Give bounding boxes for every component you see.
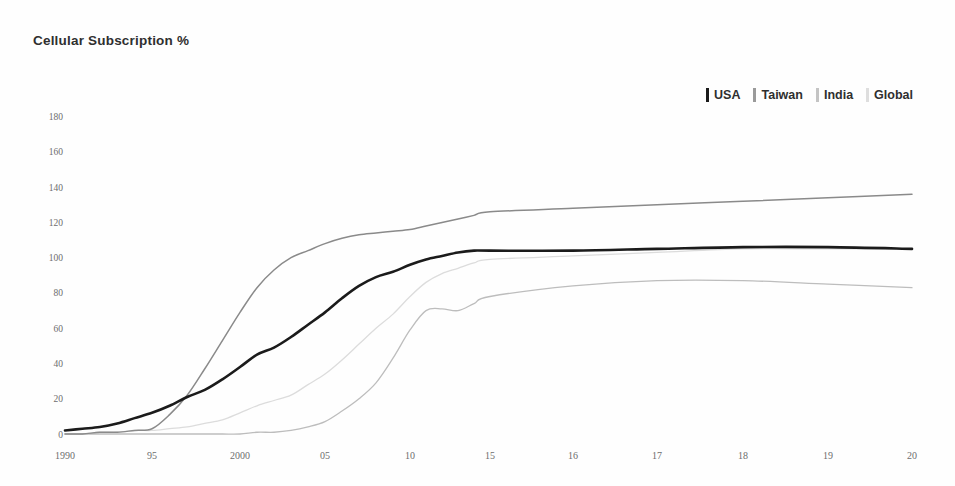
y-axis-tick-label: 0 [58, 430, 63, 440]
y-axis-tick-label: 20 [54, 394, 64, 404]
x-axis-tick-label: 1990 [55, 450, 75, 461]
x-axis-tick-label: 05 [320, 450, 330, 461]
chart-card: Cellular Subscription % USATaiwanIndiaGl… [0, 0, 955, 486]
x-axis-tick-label: 95 [147, 450, 157, 461]
y-axis-tick-label: 140 [49, 183, 64, 193]
y-axis-tick-label: 120 [49, 218, 64, 228]
y-axis-tick-label: 160 [49, 147, 64, 157]
y-axis-tick-label: 60 [54, 324, 64, 334]
x-axis: 19909520000510151617181920 [55, 450, 917, 461]
x-axis-tick-label: 17 [652, 450, 662, 461]
series-line-usa [65, 247, 912, 431]
x-axis-tick-label: 10 [405, 450, 415, 461]
x-axis-tick-label: 19 [823, 450, 833, 461]
x-axis-tick-label: 18 [738, 450, 748, 461]
y-axis-tick-label: 100 [49, 253, 64, 263]
y-axis: 020406080100120140160180 [49, 112, 64, 439]
series-line-global [65, 249, 912, 435]
series-line-taiwan [65, 194, 912, 434]
series-line-india [65, 280, 912, 434]
y-axis-tick-label: 80 [54, 288, 64, 298]
x-axis-tick-label: 16 [568, 450, 578, 461]
x-axis-tick-label: 15 [485, 450, 495, 461]
line-chart-plot: 020406080100120140160180 199095200005101… [0, 0, 955, 486]
x-axis-tick-label: 2000 [230, 450, 250, 461]
x-axis-tick-label: 20 [907, 450, 917, 461]
y-axis-tick-label: 180 [49, 112, 64, 122]
y-axis-tick-label: 40 [54, 359, 64, 369]
series-lines [65, 194, 912, 434]
